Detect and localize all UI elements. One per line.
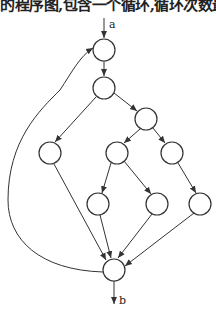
- node-9: [189, 193, 211, 215]
- exit-label: b: [119, 294, 126, 307]
- node-2: [93, 77, 115, 99]
- node-1: [93, 39, 115, 61]
- node-6: [161, 142, 183, 164]
- node-8: [146, 193, 168, 215]
- node-10: [103, 259, 125, 281]
- entry-label: a: [109, 18, 116, 31]
- node-3: [135, 108, 157, 130]
- flow-graph: a b: [0, 0, 216, 314]
- node-4: [39, 142, 61, 164]
- node-7: [87, 193, 109, 215]
- node-5: [106, 142, 128, 164]
